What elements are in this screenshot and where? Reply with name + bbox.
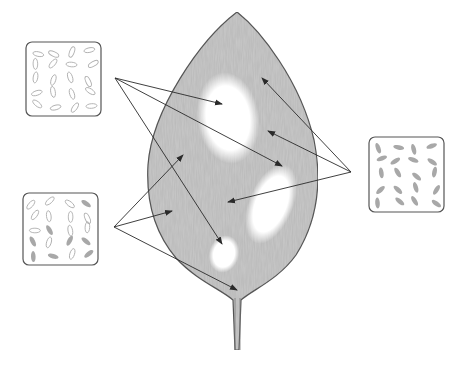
variegated-leaf-diagram	[0, 0, 468, 369]
inset-box-cells-white-region	[26, 42, 101, 116]
leaf	[148, 12, 318, 350]
inset-box-cells-mixed-region	[23, 193, 98, 265]
inset-box-cells-green-region	[369, 137, 444, 212]
diagram-canvas	[0, 0, 468, 369]
